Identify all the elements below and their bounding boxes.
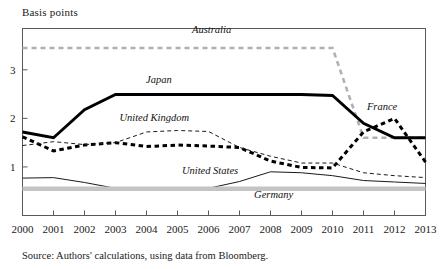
x-tick-label: 2013 [415,223,438,235]
x-tick-label: 2002 [74,223,96,235]
series-line-france [23,118,426,168]
x-tick-label: 2008 [260,223,283,235]
x-tick-label: 2011 [353,223,375,235]
series-label-united-kingdom: United Kingdom [119,112,189,123]
x-tick-label: 2010 [322,223,345,235]
source-note: Source: Authors' calculations, using dat… [22,250,268,261]
y-tick-label: 1 [10,161,16,173]
x-tick-label: 2000 [12,223,35,235]
y-axis-ticks: 123 [10,64,28,173]
x-tick-label: 2004 [136,223,159,235]
x-axis-ticks: 2000200120022003200420052006200720082009… [12,211,438,235]
series-label-australia: Australia [191,24,231,35]
x-tick-label: 2001 [43,223,65,235]
series-label-germany: Germany [254,189,293,200]
x-tick-label: 2012 [384,223,406,235]
line-chart: 123 200020012002200320042005200620072008… [0,0,442,269]
series-label-france: France [366,101,398,112]
x-tick-label: 2003 [105,223,128,235]
x-tick-label: 2005 [167,223,190,235]
y-tick-label: 2 [10,112,16,124]
y-tick-label: 3 [10,64,16,76]
x-tick-label: 2006 [198,223,221,235]
series-label-japan: Japan [146,74,172,85]
x-tick-label: 2009 [291,223,314,235]
chart-page: Basis points 123 20002001200220032004200… [0,0,442,269]
x-tick-label: 2007 [229,223,252,235]
series-line-japan [23,95,426,138]
series-label-united-states: United States [182,165,238,176]
